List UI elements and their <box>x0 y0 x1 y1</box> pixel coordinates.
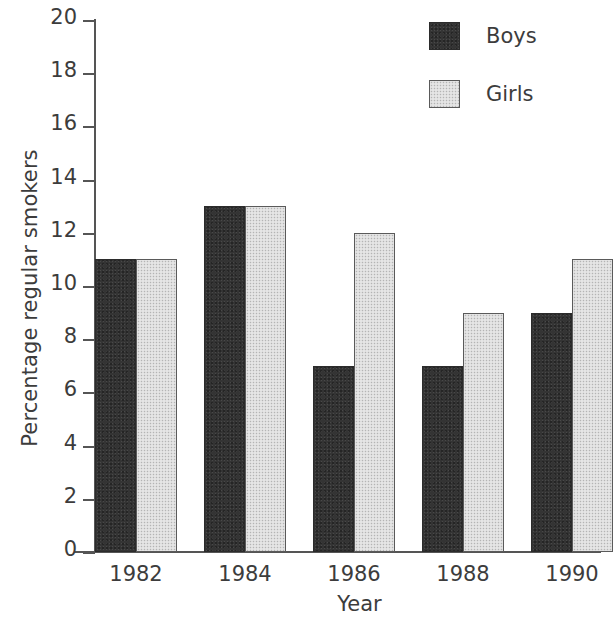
bar-group <box>531 20 613 552</box>
bar-boys-1988 <box>422 366 463 552</box>
x-axis-tick-label: 1984 <box>185 562 305 586</box>
x-axis-tick-label: 1990 <box>512 562 613 586</box>
legend-swatch-girls-icon <box>429 80 460 108</box>
y-axis-tick-mark <box>83 392 95 394</box>
bar-boys-1986 <box>313 366 354 552</box>
legend-label-girls: Girls <box>486 82 534 106</box>
legend-item-girls: Girls <box>429 80 534 108</box>
x-axis-tick-label: 1982 <box>76 562 196 586</box>
bar-boys-1990 <box>531 313 572 552</box>
bar-group <box>313 20 395 552</box>
bar-girls-1984 <box>245 206 286 552</box>
y-axis-tick-mark <box>83 339 95 341</box>
y-axis-tick-label: 14 <box>50 165 77 189</box>
y-axis-tick-mark <box>83 180 95 182</box>
bar-group <box>204 20 286 552</box>
y-axis-tick-mark <box>83 126 95 128</box>
y-axis-tick-mark <box>83 446 95 448</box>
y-axis-tick-mark <box>83 20 95 22</box>
y-axis-tick-label: 10 <box>50 271 77 295</box>
y-axis-tick-label: 2 <box>64 484 77 508</box>
legend-label-boys: Boys <box>486 24 537 48</box>
y-axis-tick-label: 16 <box>50 111 77 135</box>
x-axis-tick-label: 1988 <box>403 562 523 586</box>
y-axis-tick-mark <box>83 499 95 501</box>
bar-group <box>95 20 177 552</box>
y-axis-tick-mark <box>83 233 95 235</box>
x-axis-title: Year <box>53 592 613 616</box>
y-axis-tick-mark <box>83 286 95 288</box>
legend-item-boys: Boys <box>429 22 537 50</box>
bar-boys-1984 <box>204 206 245 552</box>
y-axis-tick-label: 12 <box>50 218 77 242</box>
bar-boys-1982 <box>95 259 136 552</box>
y-axis-tick-label: 20 <box>50 5 77 29</box>
legend-swatch-boys-icon <box>429 22 460 50</box>
y-axis-title: Percentage regular smokers <box>18 88 42 508</box>
bar-girls-1990 <box>572 259 613 552</box>
bar-chart: Percentage regular smokers 2018161412108… <box>0 0 613 628</box>
bar-girls-1986 <box>354 233 395 552</box>
y-axis-tick-label: 0 <box>64 537 77 561</box>
bar-girls-1988 <box>463 313 504 552</box>
y-axis-tick-label: 18 <box>50 58 77 82</box>
bar-girls-1982 <box>136 259 177 552</box>
y-axis-tick-mark <box>83 552 95 554</box>
y-axis-tick-label: 8 <box>64 324 77 348</box>
y-axis-tick-label: 4 <box>64 431 77 455</box>
x-axis-tick-label: 1986 <box>294 562 414 586</box>
y-axis-tick-label: 6 <box>64 377 77 401</box>
y-axis-tick-mark <box>83 73 95 75</box>
